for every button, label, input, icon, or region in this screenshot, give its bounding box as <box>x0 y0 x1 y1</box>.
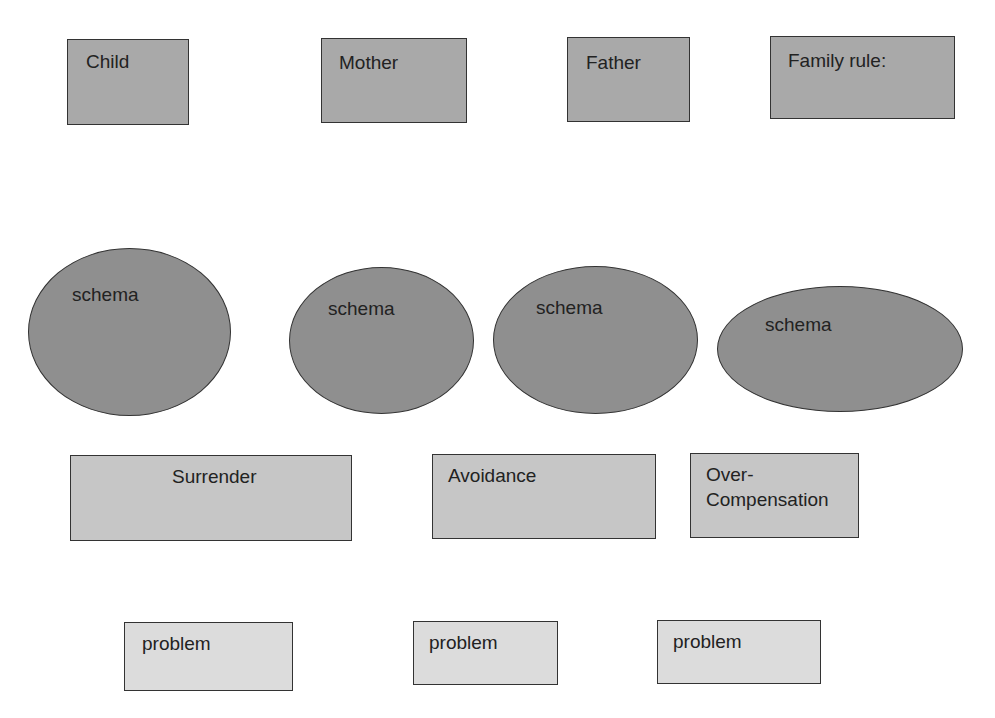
mother-box: Mother <box>321 38 467 123</box>
problem-box-2: problem <box>413 621 558 685</box>
mother-label: Mother <box>339 51 398 74</box>
family-rule-label: Family rule: <box>788 49 886 72</box>
avoidance-box: Avoidance <box>432 454 656 539</box>
schema-father-label: schema <box>536 296 603 319</box>
problem-box-1: problem <box>124 622 293 691</box>
problem-label-3: problem <box>673 630 742 653</box>
problem-box-3: problem <box>657 620 821 684</box>
surrender-label: Surrender <box>172 465 257 488</box>
schema-mother-label: schema <box>328 297 395 320</box>
over-compensation-label-line1: Over- <box>706 463 754 486</box>
surrender-box: Surrender <box>70 455 352 541</box>
schema-family-rule-ellipse: schema <box>717 286 963 412</box>
avoidance-label: Avoidance <box>448 464 536 487</box>
schema-family-rule-label: schema <box>765 313 832 336</box>
family-rule-box: Family rule: <box>770 36 955 119</box>
schema-mother-ellipse: schema <box>289 267 474 414</box>
child-label: Child <box>86 50 129 73</box>
schema-father-ellipse: schema <box>493 266 698 414</box>
problem-label-2: problem <box>429 631 498 654</box>
problem-label-1: problem <box>142 632 211 655</box>
over-compensation-label-line2: Compensation <box>706 488 829 511</box>
schema-child-ellipse: schema <box>28 248 231 416</box>
father-box: Father <box>567 37 690 122</box>
father-label: Father <box>586 51 641 74</box>
child-box: Child <box>67 39 189 125</box>
over-compensation-box: Over- Compensation <box>690 453 859 538</box>
schema-child-label: schema <box>72 283 139 306</box>
